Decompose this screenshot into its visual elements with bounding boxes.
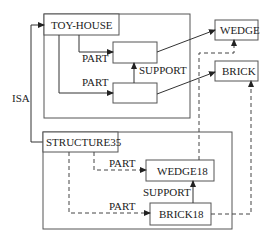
lower-slot-node[interactable]: [113, 83, 157, 103]
brick18-to-brick-edge: [211, 81, 251, 214]
support-label-top: SUPPORT: [139, 64, 187, 76]
isa-edge: [31, 25, 44, 142]
wedge-label: WEDGE: [220, 24, 260, 36]
part-label-bottom-lower: PART: [109, 200, 136, 212]
wedge18-label: WEDGE18: [157, 165, 208, 177]
isa-label: ISA: [12, 92, 30, 104]
brick18-label: BRICK18: [159, 208, 204, 220]
brick-label: BRICK: [222, 65, 256, 77]
edge-upper-to-wedge: [157, 30, 215, 52]
part-edge-upper: [79, 35, 113, 52]
upper-slot-node[interactable]: [113, 42, 157, 63]
part-label-top-lower: PART: [82, 76, 109, 88]
wedge18-to-wedge-edge: [199, 40, 234, 160]
toy-house-label: TOY-HOUSE: [51, 19, 113, 31]
semantic-network-diagram: TOY-HOUSE PART PART SUPPORT WEDGE BRICK …: [0, 0, 277, 243]
part-label-bottom-upper: PART: [109, 157, 136, 169]
part-label-top-upper: PART: [82, 52, 109, 64]
support-label-bottom: SUPPORT: [143, 186, 191, 198]
structure35-label: STRUCTURE35: [46, 136, 122, 148]
